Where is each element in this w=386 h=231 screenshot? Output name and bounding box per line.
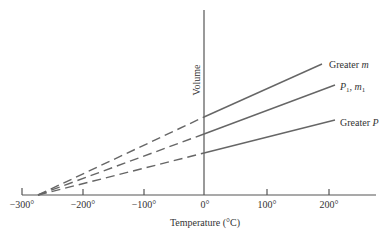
chart: −300° −200° −100° 0° 100° 200° Temperatu…	[0, 0, 386, 231]
series-p1-m1	[38, 85, 335, 195]
x-axis-title: Temperature (°C)	[170, 217, 240, 229]
tick-label-neg300: −300°	[10, 199, 35, 210]
series-greater-m	[38, 64, 322, 195]
label-greater-m: Greater m	[329, 59, 369, 70]
tick-label-neg100: −100°	[132, 199, 157, 210]
tick-label-100: 100°	[258, 199, 277, 210]
tick-label-200: 200°	[320, 199, 339, 210]
series-greater-p	[38, 120, 335, 195]
label-greater-p: Greater P	[340, 117, 379, 128]
tick-label-neg200: −200°	[71, 199, 96, 210]
x-ticks	[83, 189, 329, 195]
label-p1-m1: P1, m1	[339, 81, 366, 94]
tick-label-0: 0°	[201, 199, 210, 210]
y-axis-title: Volume	[191, 64, 202, 95]
